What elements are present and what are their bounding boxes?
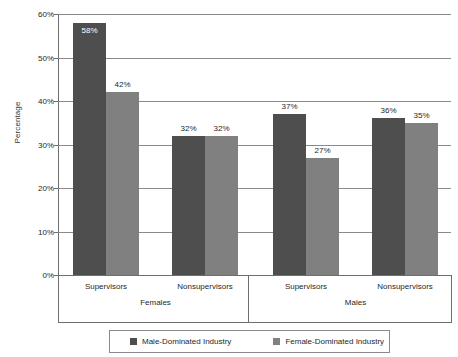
gridline	[58, 14, 451, 15]
bar-value-label: 32%	[180, 124, 196, 133]
bar	[306, 158, 339, 275]
bar	[405, 123, 438, 275]
legend-item-female-dominated: Female-Dominated Industry	[273, 337, 384, 346]
y-tick-label: 0%	[24, 271, 54, 280]
x-category-label: Nonsupervisors	[377, 282, 433, 291]
y-axis-ticks: 0%10%20%30%40%50%60%	[20, 14, 54, 275]
x-axis-line	[58, 275, 452, 276]
y-tick-label: 60%	[24, 10, 54, 19]
y-tick-label: 10%	[24, 227, 54, 236]
bar	[106, 92, 139, 275]
gridline	[58, 58, 451, 59]
x-category-label: Supervisors	[85, 282, 127, 291]
bar-value-label: 32%	[213, 124, 229, 133]
x-group-label: Females	[140, 298, 171, 307]
bar	[172, 136, 205, 275]
bar	[205, 136, 238, 275]
y-tick-label: 40%	[24, 97, 54, 106]
chart-legend: Male-Dominated Industry Female-Dominated…	[109, 330, 390, 353]
legend-swatch-icon-female-dominated	[273, 338, 280, 345]
bar-value-label: 58%	[81, 26, 97, 35]
bar-value-label: 36%	[380, 106, 396, 115]
bar	[273, 114, 306, 275]
x-category-label: Supervisors	[285, 282, 327, 291]
plot-area: 58%42%32%32%37%27%36%35%	[58, 14, 451, 275]
x-category-label: Nonsupervisors	[177, 282, 233, 291]
x-group-label: Males	[345, 298, 366, 307]
y-tick-label: 30%	[24, 140, 54, 149]
bar-value-label: 27%	[314, 146, 330, 155]
legend-label-female-dominated: Female-Dominated Industry	[285, 337, 384, 346]
bar	[73, 23, 106, 275]
y-tick-label: 20%	[24, 184, 54, 193]
legend-swatch-icon-male-dominated	[130, 338, 137, 345]
axis-band-left-border	[58, 276, 59, 323]
bar-value-label: 37%	[281, 102, 297, 111]
bar-value-label: 35%	[413, 111, 429, 120]
chart-container: Percentage 0%10%20%30%40%50%60% 58%42%32…	[0, 0, 458, 357]
y-tick-label: 50%	[24, 53, 54, 62]
bar	[372, 118, 405, 275]
plot-right-border	[451, 275, 452, 323]
bar-value-label: 42%	[114, 80, 130, 89]
group-separator	[248, 276, 249, 323]
axis-band-bottom-border	[58, 322, 452, 323]
legend-label-male-dominated: Male-Dominated Industry	[142, 337, 231, 346]
legend-item-male-dominated: Male-Dominated Industry	[130, 337, 231, 346]
